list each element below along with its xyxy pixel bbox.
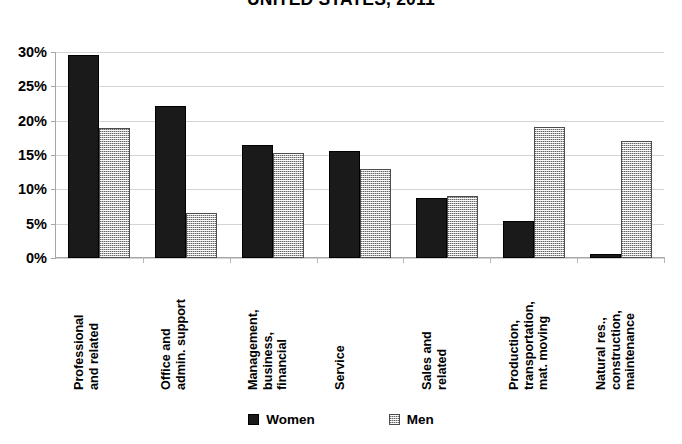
category-label: Sales andrelated [420, 331, 449, 390]
bar-women [242, 145, 273, 258]
y-axis-tick-mark [51, 155, 56, 156]
category-label-line: construction, [608, 310, 623, 390]
y-axis-tick-label: 25% [0, 78, 47, 94]
category-label-line: Natural res., [594, 310, 609, 390]
bar-men [621, 141, 652, 258]
y-axis-tick-mark [51, 52, 56, 53]
bar-women [590, 254, 621, 258]
y-axis-tick-mark [51, 86, 56, 87]
legend-swatch-men-icon [389, 414, 400, 425]
bar-women [503, 221, 534, 258]
category-label: Management,business,financial [246, 310, 290, 390]
legend-item-women[interactable]: Women [248, 412, 315, 427]
y-axis-tick-mark [51, 121, 56, 122]
gridline [56, 155, 664, 156]
category-label: Natural res.,construction,maintenance [594, 310, 638, 390]
category-label-line: Production, [507, 301, 522, 390]
y-axis-tick-mark [51, 189, 56, 190]
category-label-line: financial [275, 310, 290, 390]
category-label-line: Sales and [420, 331, 435, 390]
bar-men [360, 169, 391, 258]
category-label-line: Professional [72, 314, 87, 390]
y-axis-tick-label: 15% [0, 147, 47, 163]
y-axis-tick-mark [51, 258, 56, 259]
bar-women [329, 151, 360, 258]
bar-women [416, 198, 447, 258]
category-label-line: admin. support [174, 299, 189, 390]
category-label: Production,transportation,mat. moving [507, 301, 551, 390]
category-label-line: related [434, 331, 449, 390]
y-axis-tick-label: 30% [0, 44, 47, 60]
chart-legend: WomenMen [0, 412, 682, 427]
bar-men [186, 213, 217, 258]
y-axis-tick-label: 0% [0, 250, 47, 266]
bar-chart: UNITED STATES, 2011 0%5%10%15%20%25%30% … [0, 0, 682, 444]
y-axis-tick-label: 10% [0, 181, 47, 197]
category-label-line: business, [261, 310, 276, 390]
chart-title: UNITED STATES, 2011 [0, 0, 682, 10]
y-axis-tick-label: 20% [0, 113, 47, 129]
gridline [56, 86, 664, 87]
gridline [56, 52, 664, 53]
gridline [56, 258, 664, 259]
category-label-line: Office and [159, 299, 174, 390]
bar-women [68, 55, 99, 258]
plot-area [56, 52, 664, 258]
y-axis-tick-mark [51, 224, 56, 225]
category-label-line: mat. moving [536, 301, 551, 390]
category-label-line: Management, [246, 310, 261, 390]
bar-men [99, 128, 130, 258]
bar-women [155, 106, 186, 258]
gridline [56, 121, 664, 122]
y-axis-tick-label: 5% [0, 216, 47, 232]
bar-men [534, 127, 565, 258]
legend-label: Men [407, 412, 434, 427]
category-label: Office andadmin. support [159, 299, 188, 390]
bar-men [273, 153, 304, 258]
category-label-line: and related [87, 314, 102, 390]
category-label: Professionaland related [72, 314, 101, 390]
legend-swatch-women-icon [248, 414, 259, 425]
category-separator [664, 257, 665, 263]
category-label-line: transportation, [521, 301, 536, 390]
category-label-line: Service [333, 345, 348, 390]
legend-item-men[interactable]: Men [389, 412, 434, 427]
legend-label: Women [266, 412, 315, 427]
category-label-line: maintenance [623, 310, 638, 390]
x-axis-category-labels: Professionaland relatedOffice andadmin. … [56, 262, 664, 394]
bar-men [447, 196, 478, 258]
category-label: Service [333, 345, 348, 390]
